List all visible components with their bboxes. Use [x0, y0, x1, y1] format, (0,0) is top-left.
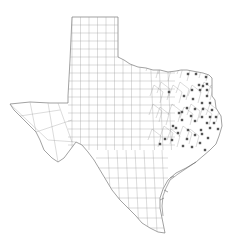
- county-marker-dot: [183, 95, 185, 97]
- county-marker-dot: [190, 115, 192, 117]
- county-marker-dot: [194, 120, 196, 122]
- county-marker-dot: [186, 107, 188, 109]
- county-marker-dot: [211, 109, 213, 111]
- county-marker-dot: [201, 102, 203, 104]
- county-marker-dot: [191, 146, 193, 148]
- county-marker-dot: [178, 112, 180, 114]
- county-marker-dot: [187, 129, 189, 131]
- county-marker-dot: [198, 84, 200, 86]
- county-marker-dot: [204, 149, 206, 151]
- county-marker-dot: [192, 98, 194, 100]
- county-marker-dot: [195, 73, 197, 75]
- county-marker-dot: [207, 137, 209, 139]
- county-marker-dot: [206, 89, 208, 91]
- county-marker-dot: [209, 127, 211, 129]
- county-marker-dot: [202, 108, 204, 110]
- county-marker-dot: [191, 89, 193, 91]
- county-marker-dot: [201, 133, 203, 135]
- county-marker-dot: [213, 122, 215, 124]
- county-marker-dot: [200, 129, 202, 131]
- county-marker-dot: [175, 127, 177, 129]
- county-marker-dot: [171, 139, 173, 141]
- county-marker-dot: [215, 116, 217, 118]
- county-marker-dot: [181, 119, 183, 121]
- county-marker-dot: [209, 116, 211, 118]
- county-marker-dot: [199, 142, 201, 144]
- county-marker-dot: [164, 138, 166, 140]
- county-marker-dot: [209, 102, 211, 104]
- county-marker-dot: [199, 89, 201, 91]
- county-marker-dot: [168, 91, 170, 93]
- county-marker-dot: [181, 111, 183, 113]
- texas-county-map: [0, 0, 236, 246]
- state-outline: [10, 17, 222, 233]
- county-marker-dot: [182, 145, 184, 147]
- county-marker-dot: [206, 83, 208, 85]
- county-marker-dot: [159, 143, 161, 145]
- county-marker-dot: [206, 122, 208, 124]
- county-marker-dot: [206, 95, 208, 97]
- county-marker-dot: [194, 134, 196, 136]
- county-marker-dot: [202, 85, 204, 87]
- county-marker-dot: [194, 108, 196, 110]
- county-marker-dot: [201, 116, 203, 118]
- county-marker-dot: [205, 76, 207, 78]
- county-marker-dot: [186, 138, 188, 140]
- county-marker-dot: [177, 132, 179, 134]
- county-marker-dot: [187, 73, 189, 75]
- county-marker-dot: [217, 128, 219, 130]
- county-marker-dot: [172, 125, 174, 127]
